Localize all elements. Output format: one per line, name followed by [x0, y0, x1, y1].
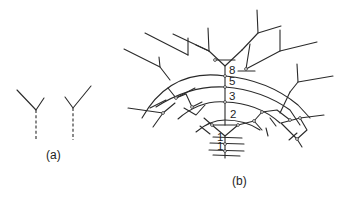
branching-network-figure: (a) [0, 0, 349, 201]
panel-a: (a) [17, 86, 91, 162]
panel-b: 8 5 3 2 1 1 (b) [124, 10, 333, 188]
order-label-1-lower: 1 [217, 140, 223, 152]
panel-a-label: (a) [46, 148, 61, 162]
right-branches [238, 92, 324, 147]
y-branch-right [65, 86, 91, 140]
order-label-3: 3 [229, 90, 235, 102]
order-label-2: 2 [230, 108, 236, 120]
left-branches [124, 33, 212, 134]
upper-branches [173, 10, 333, 92]
panel-b-label: (b) [232, 174, 247, 188]
order-labels: 8 5 3 2 1 1 [217, 64, 236, 152]
y-branch-left [17, 90, 44, 140]
order-label-5: 5 [229, 75, 235, 87]
